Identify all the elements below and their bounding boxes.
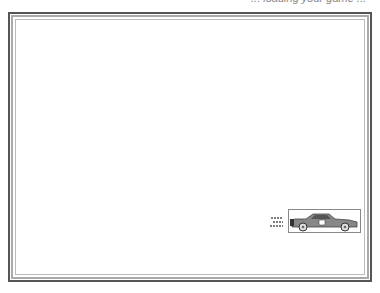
speed-lines-icon: [269, 215, 285, 229]
race-car-sprite[interactable]: [288, 209, 361, 233]
race-car-icon: [289, 210, 360, 232]
game-stage[interactable]: [8, 12, 372, 282]
top-caption: ... loading your game ...: [251, 0, 366, 4]
stage-inner-border: [15, 19, 365, 275]
